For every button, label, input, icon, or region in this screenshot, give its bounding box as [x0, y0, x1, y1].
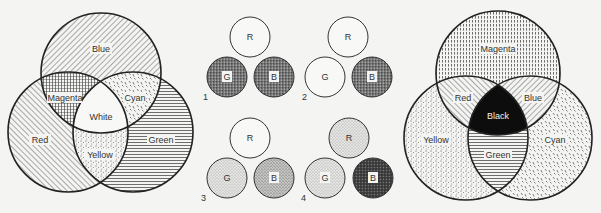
- label-blue: Blue: [524, 93, 542, 103]
- label-g: G: [223, 72, 230, 82]
- label-r: R: [346, 133, 353, 143]
- panel-4: R G B 4: [301, 118, 393, 203]
- panel-3: R G B 3: [201, 118, 294, 203]
- subtractive-venn: Magenta Red Blue Black Yellow Cyan Green: [404, 11, 592, 200]
- additive-venn: Blue Magenta Cyan White Red Green Yellow: [8, 13, 193, 192]
- label-magenta: Magenta: [47, 93, 82, 103]
- label-b: B: [370, 173, 376, 183]
- label-b: B: [369, 72, 375, 82]
- label-b: B: [271, 72, 277, 82]
- label-red: Red: [32, 135, 49, 145]
- label-red: Red: [455, 93, 472, 103]
- label-g: G: [321, 173, 328, 183]
- label-cyan: Cyan: [544, 135, 565, 145]
- label-green: Green: [148, 135, 173, 145]
- label-yellow: Yellow: [87, 150, 113, 160]
- label-white: White: [89, 112, 112, 122]
- panel-number: 1: [203, 92, 208, 102]
- panel-number: 2: [302, 92, 307, 102]
- label-green: Green: [485, 150, 510, 160]
- label-r: R: [345, 32, 352, 42]
- panel-2: R G B 2: [302, 17, 392, 102]
- panel-number: 3: [201, 193, 206, 203]
- label-g: G: [321, 72, 328, 82]
- panel-number: 4: [301, 193, 306, 203]
- label-r: R: [247, 133, 254, 143]
- color-mixing-diagram: Blue Magenta Cyan White Red Green Yellow…: [0, 0, 601, 213]
- rgb-panels: R G B 1 R G B 2 R G B 3: [201, 17, 393, 203]
- label-black: Black: [487, 111, 510, 121]
- label-cyan: Cyan: [124, 93, 145, 103]
- label-blue: Blue: [92, 44, 110, 54]
- label-magenta: Magenta: [480, 44, 515, 54]
- label-b: B: [271, 173, 277, 183]
- panel-1: R G B 1: [203, 17, 294, 102]
- label-g: G: [223, 173, 230, 183]
- label-yellow: Yellow: [423, 135, 449, 145]
- label-r: R: [247, 32, 254, 42]
